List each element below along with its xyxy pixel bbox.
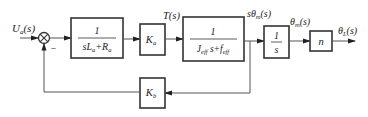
armature-denominator: sLa+Ra (83, 41, 112, 53)
torque-constant-block: Ka (140, 24, 165, 55)
armature-numerator: 1 (95, 25, 100, 36)
mechanical-numerator: 1 (211, 26, 216, 37)
integrator-block: 1 s (264, 26, 289, 58)
block-diagram: Ua(s) − 1 sLa+Ra Ka T(s) 1 Jeff s+feff s… (0, 0, 368, 117)
gear-block: n (310, 31, 332, 51)
integrator-denominator: s (275, 44, 279, 55)
armature-block: 1 sLa+Ra (71, 18, 123, 58)
motor-angle-label: θm(s) (290, 16, 311, 28)
load-angle-label: θL(s) (338, 25, 358, 37)
torque-signal-label: T(s) (163, 10, 180, 22)
summing-junction (39, 33, 50, 44)
motor-speed-label: sθm(s) (247, 8, 272, 20)
integrator-numerator: 1 (274, 30, 279, 41)
gear-ratio-label: n (318, 36, 323, 47)
mechanical-block: 1 Jeff s+feff (183, 17, 244, 61)
back-emf-block: Kb (140, 78, 165, 108)
diagram-canvas: Ua(s) − 1 sLa+Ra Ka T(s) 1 Jeff s+feff s… (0, 0, 368, 117)
input-signal-label: Ua(s) (12, 22, 35, 36)
feedback-minus-sign: − (50, 43, 57, 54)
